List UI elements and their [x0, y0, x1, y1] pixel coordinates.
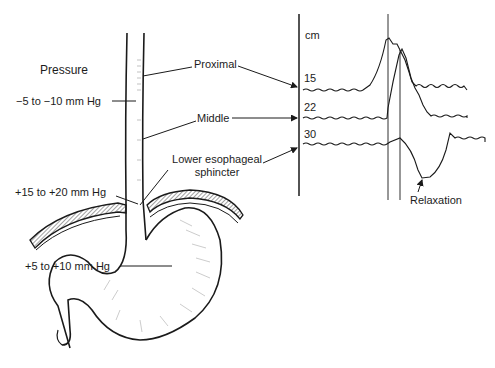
diaphragm-left — [30, 203, 126, 250]
trace-15cm — [303, 38, 467, 91]
pressure-stomach: +5 to +10 mm Hg — [25, 260, 110, 272]
pressure-esophagus-body: −5 to −10 mm Hg — [16, 95, 101, 107]
channel-label-15: 15 — [304, 72, 316, 84]
trace-30cm — [303, 133, 485, 178]
label-les-line1: Lower esophageal — [172, 153, 262, 165]
label-proximal: Proximal — [194, 58, 237, 70]
region-arrows — [232, 66, 297, 163]
axis-unit-label: cm — [305, 29, 320, 41]
label-middle: Middle — [197, 112, 229, 124]
pressure-heading: Pressure — [40, 64, 88, 76]
label-les-line2: sphincter — [172, 166, 262, 178]
diaphragm-right — [147, 190, 243, 223]
leader-lines — [0, 0, 196, 266]
relaxation-label: Relaxation — [410, 194, 462, 206]
esophagus — [126, 33, 146, 240]
channel-label-22: 22 — [304, 101, 316, 113]
stomach — [49, 208, 221, 348]
relaxation-arrow — [418, 180, 422, 192]
esophagus-manometry-diagram — [0, 0, 495, 368]
pressure-les: +15 to +20 mm Hg — [15, 186, 106, 198]
channel-label-30: 30 — [304, 128, 316, 140]
